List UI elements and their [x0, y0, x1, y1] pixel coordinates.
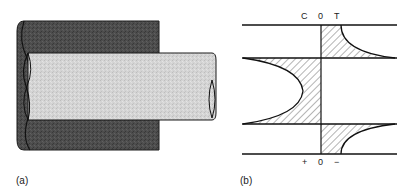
axis-label-tension: T	[334, 11, 340, 21]
figure-canvas	[0, 0, 414, 195]
panel-a-label: (a)	[16, 175, 28, 186]
panel-b-label: (b)	[240, 175, 252, 186]
panel-a-diagram	[17, 21, 216, 150]
panel-b-diagram	[242, 25, 397, 154]
axis-label-compression: C	[301, 11, 308, 21]
axis-label-plus: +	[302, 157, 307, 167]
rod	[28, 53, 216, 120]
tension-region-bottom	[321, 124, 385, 154]
tension-region-top	[321, 25, 385, 57]
axis-label-zero-top: 0	[318, 11, 323, 21]
axis-label-minus: −	[334, 157, 339, 167]
axis-label-zero-bottom: 0	[318, 157, 323, 167]
